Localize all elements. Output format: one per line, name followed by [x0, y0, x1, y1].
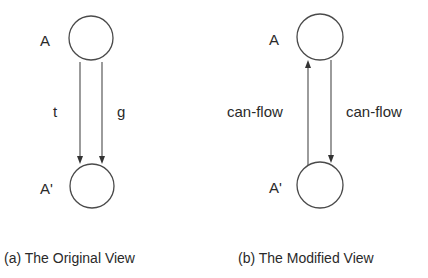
- edge-t: [77, 62, 83, 164]
- edge-can-flow-down-label: can-flow: [346, 103, 402, 120]
- edge-g: [99, 62, 105, 164]
- node-a-label: A: [40, 32, 50, 49]
- edge-t-label: t: [53, 103, 58, 120]
- edge-can-flow-down: [328, 60, 334, 163]
- panel-modified-view: A A' can-flow can-flow (b) The Modified …: [227, 14, 402, 266]
- node-a-original: [69, 16, 113, 60]
- node-a-modified: [297, 14, 343, 60]
- panel-original-view: A A' t g (a) The Original View: [4, 16, 136, 266]
- diagram-canvas: A A' t g (a) The Original View A A': [0, 0, 428, 278]
- arrowhead-down-icon: [99, 156, 105, 164]
- edge-can-flow-up: [305, 60, 311, 165]
- node-a-prime-original: [70, 164, 114, 208]
- caption-original-view: (a) The Original View: [4, 250, 136, 266]
- node-a-prime-label: A': [40, 180, 53, 197]
- node-a-prime-label: A': [269, 179, 282, 196]
- edge-g-label: g: [117, 103, 125, 120]
- node-a-label: A: [269, 31, 279, 48]
- caption-modified-view: (b) The Modified View: [238, 250, 375, 266]
- arrowhead-down-icon: [77, 156, 83, 164]
- arrowhead-down-icon: [328, 155, 334, 163]
- arrowhead-up-icon: [305, 60, 311, 68]
- edge-can-flow-up-label: can-flow: [227, 103, 283, 120]
- node-a-prime-modified: [297, 162, 343, 208]
